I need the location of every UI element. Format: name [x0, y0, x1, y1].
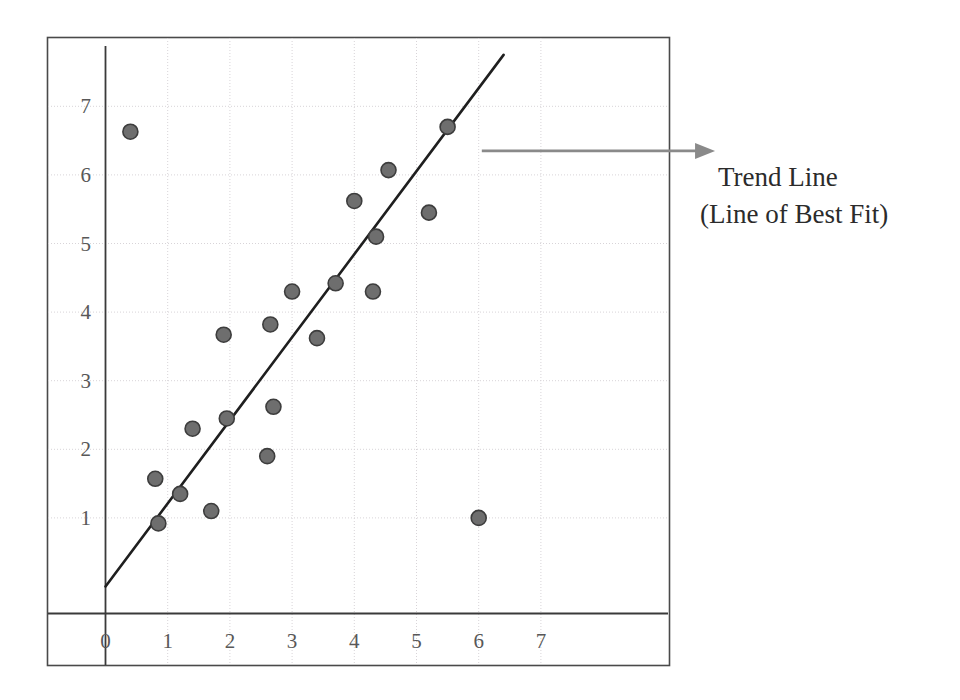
x-tick-label-0: 0 — [100, 629, 111, 653]
data-point — [151, 516, 166, 531]
trend-line-callout-label-secondary: (Line of Best Fit) — [700, 196, 888, 232]
y-tick-label-7: 7 — [81, 94, 92, 118]
x-tick-label-3: 3 — [287, 629, 298, 653]
data-point — [185, 421, 200, 436]
x-tick-label-5: 5 — [411, 629, 422, 653]
x-tick-label-4: 4 — [349, 629, 360, 653]
scatter-plot-figure: 01234567 1234567 Trend Line (Line of Bes… — [0, 0, 960, 700]
data-point — [148, 471, 163, 486]
data-point — [204, 504, 219, 519]
data-point — [328, 276, 343, 291]
figure-canvas: 01234567 1234567 Trend Line (Line of Bes… — [0, 0, 960, 700]
data-point — [369, 229, 384, 244]
y-tick-label-1: 1 — [81, 506, 92, 530]
plot-frame — [48, 38, 670, 666]
data-point — [309, 331, 324, 346]
data-point — [440, 119, 455, 134]
data-point — [216, 327, 231, 342]
data-point — [365, 284, 380, 299]
y-tick-label-5: 5 — [81, 232, 92, 256]
callout-arrow-head — [695, 143, 715, 159]
data-point — [381, 163, 396, 178]
data-point — [219, 411, 234, 426]
data-point — [471, 510, 486, 525]
data-point — [421, 205, 436, 220]
data-point — [123, 124, 138, 139]
y-tick-label-3: 3 — [81, 369, 92, 393]
x-tick-label-6: 6 — [473, 629, 484, 653]
data-point — [260, 449, 275, 464]
data-point — [263, 317, 278, 332]
data-point — [173, 486, 188, 501]
x-tick-label-7: 7 — [536, 629, 547, 653]
y-tick-label-2: 2 — [81, 437, 92, 461]
y-tick-label-6: 6 — [81, 163, 92, 187]
y-tick-label-4: 4 — [81, 300, 92, 324]
plot-svg: 01234567 1234567 — [0, 0, 960, 700]
data-point — [266, 399, 281, 414]
data-point — [347, 193, 362, 208]
data-point — [285, 284, 300, 299]
trend-line-callout-label-primary: Trend Line — [718, 159, 838, 195]
x-tick-label-1: 1 — [162, 629, 173, 653]
x-tick-label-2: 2 — [225, 629, 236, 653]
